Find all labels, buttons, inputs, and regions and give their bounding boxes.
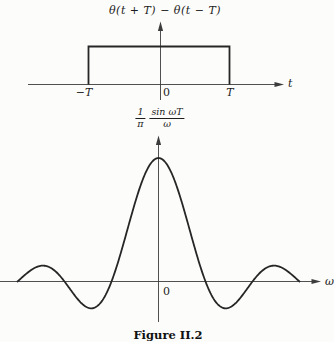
figure-caption: Figure II.2 <box>133 329 202 342</box>
top-y-axis-arrow-icon <box>158 22 163 32</box>
fraction-denominator: π <box>137 119 143 130</box>
top-x-axis-label: t <box>288 78 292 90</box>
fraction-numerator: 1 <box>135 107 145 119</box>
fraction-sin-over-omega: sin ωT ω <box>149 107 184 130</box>
pulse-curve <box>89 47 230 85</box>
top-x-axis-arrow-icon <box>275 82 285 87</box>
top-plot-axes <box>28 28 277 100</box>
bottom-plot-axes <box>0 141 314 322</box>
tick-label-origin-top: 0 <box>163 87 170 99</box>
top-plot-title: θ(t + T) − θ(t − T) <box>109 5 221 17</box>
bottom-y-axis-label: 1 π sin ωT ω <box>135 107 184 130</box>
tick-label-neg-T: −T <box>76 87 93 99</box>
tick-label-origin-bottom: 0 <box>163 286 170 298</box>
bottom-x-axis-label: ω <box>325 276 334 288</box>
fraction-numerator: sin ωT <box>149 107 184 119</box>
bottom-x-axis-arrow-icon <box>312 279 322 284</box>
fraction-one-over-pi: 1 π <box>135 107 145 130</box>
bottom-y-axis-arrow-icon <box>156 136 161 146</box>
tick-label-T: T <box>226 87 233 99</box>
fraction-denominator: ω <box>163 119 171 130</box>
